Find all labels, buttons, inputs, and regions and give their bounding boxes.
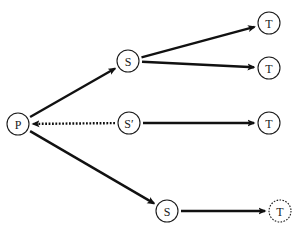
tree-diagram: PSS′STTTT xyxy=(0,0,299,227)
arrow-s1-to-t2 xyxy=(142,62,254,68)
nodes: PSS′STTTT xyxy=(7,12,291,222)
arrow-s1-to-t1 xyxy=(142,27,255,58)
node-t3: T xyxy=(258,112,280,134)
node-label: S xyxy=(125,55,132,69)
node-label: T xyxy=(265,17,273,31)
arrow-p-to-s1 xyxy=(30,69,115,118)
node-label: T xyxy=(265,62,273,76)
node-s1: S xyxy=(117,50,139,72)
arrow-s2-to-p xyxy=(33,123,115,124)
node-label: S xyxy=(164,205,171,219)
node-s3: S xyxy=(156,200,178,222)
node-label: P xyxy=(15,118,22,132)
arrow-p-to-s3 xyxy=(30,131,154,203)
node-t4: T xyxy=(269,200,291,222)
edges xyxy=(30,27,265,211)
node-label: T xyxy=(276,205,284,219)
node-p: P xyxy=(7,113,29,135)
node-s2: S′ xyxy=(118,112,140,134)
node-label: S′ xyxy=(124,117,134,131)
node-t1: T xyxy=(258,12,280,34)
node-t2: T xyxy=(258,57,280,79)
node-label: T xyxy=(265,117,273,131)
